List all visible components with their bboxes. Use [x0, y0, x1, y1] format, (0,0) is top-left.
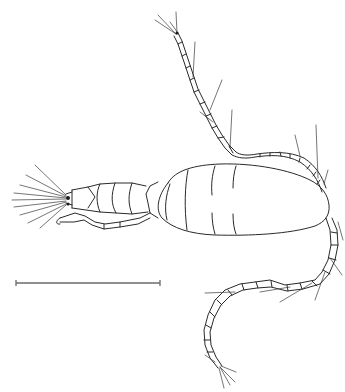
urosome	[66, 183, 148, 214]
figure-canvas	[0, 0, 345, 392]
scale-bar	[16, 280, 160, 286]
lower-antennule	[204, 218, 343, 388]
caudal-setae	[12, 165, 66, 228]
leg	[57, 213, 150, 229]
upper-antennule	[155, 12, 328, 192]
prosome	[146, 164, 329, 235]
copepod-illustration	[0, 0, 345, 392]
